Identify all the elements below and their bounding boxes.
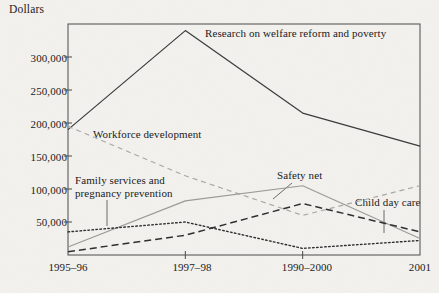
series-line-family-services-and-pregnancy-prevention	[68, 186, 420, 247]
chart-figure: Dollars 300,000 250,000 200,000 150,000 …	[0, 0, 439, 293]
leader-line-safety-net	[273, 183, 292, 199]
series-line-research-on-welfare-reform-and-poverty	[68, 31, 420, 147]
series-layer	[68, 31, 420, 252]
plot-area	[0, 0, 439, 293]
plot-frame	[68, 24, 420, 255]
series-line-workforce-development	[68, 126, 420, 215]
